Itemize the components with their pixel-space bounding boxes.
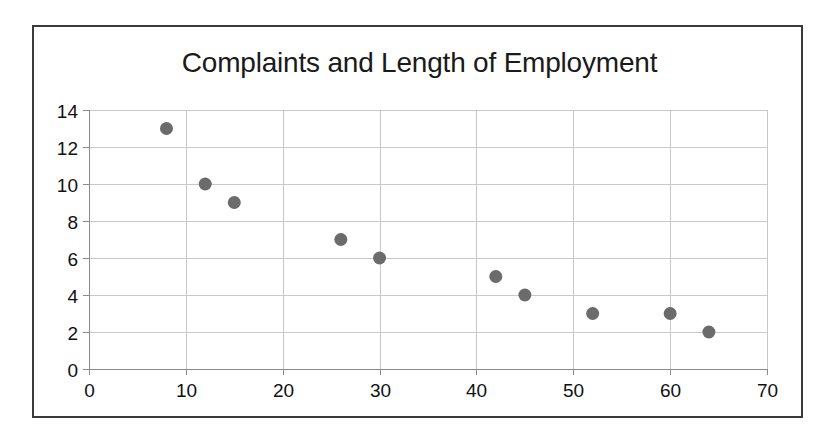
y-tick-label: 0 <box>67 360 78 381</box>
y-tick-label: 8 <box>67 212 78 233</box>
data-point <box>489 270 502 283</box>
tick-label-layer: 02468101214010203040506070 <box>57 101 778 402</box>
x-tick-label: 70 <box>757 380 778 401</box>
data-point <box>586 307 599 320</box>
x-tick-label: 30 <box>370 380 391 401</box>
chart-figure-frame: Complaints and Length of Employment 0246… <box>32 25 803 418</box>
x-tick-label: 10 <box>176 380 197 401</box>
data-point <box>702 326 715 339</box>
data-marker-layer <box>160 122 715 339</box>
y-tick-label: 6 <box>67 249 78 270</box>
y-tick-label: 14 <box>57 101 79 122</box>
y-tick-label: 12 <box>57 138 78 159</box>
grid-layer <box>89 110 768 370</box>
y-tick-label: 2 <box>67 323 78 344</box>
scatter-plot: 02468101214010203040506070 <box>34 27 805 420</box>
data-point <box>373 252 386 265</box>
data-point <box>160 122 173 135</box>
tick-layer <box>83 111 768 376</box>
data-point <box>228 196 241 209</box>
x-tick-label: 50 <box>563 380 584 401</box>
x-tick-label: 20 <box>273 380 294 401</box>
y-tick-label: 10 <box>57 175 78 196</box>
x-tick-label: 60 <box>660 380 681 401</box>
data-point <box>518 289 531 302</box>
y-tick-label: 4 <box>67 286 78 307</box>
axis-layer <box>89 110 767 370</box>
data-point <box>664 307 677 320</box>
data-point <box>334 233 347 246</box>
x-tick-label: 40 <box>466 380 487 401</box>
x-tick-label: 0 <box>84 380 95 401</box>
data-point <box>199 178 212 191</box>
